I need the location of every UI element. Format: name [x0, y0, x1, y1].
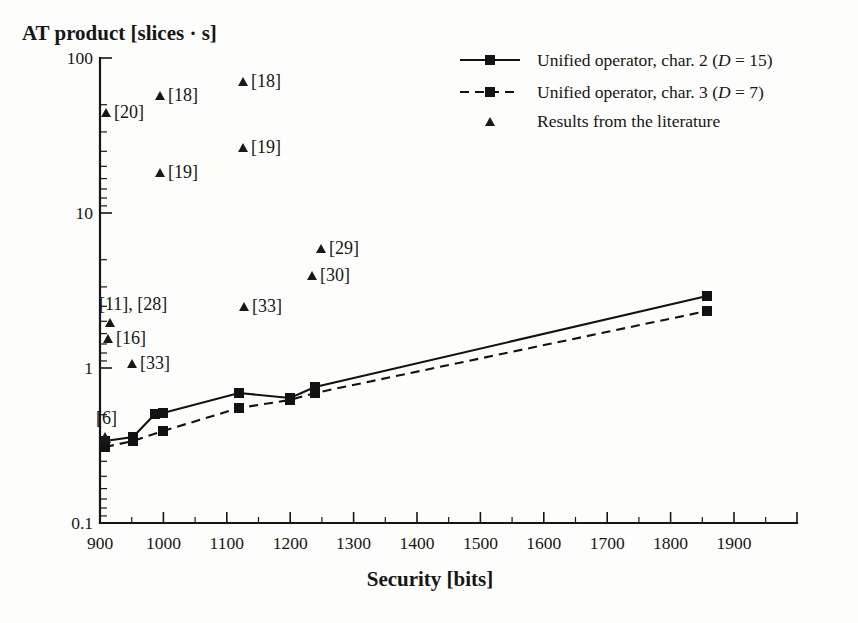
literature-point-29: [29] [316, 238, 359, 258]
literature-label-18-a: [18] [168, 85, 198, 105]
legend-item-literature[interactable]: Results from the literature [485, 111, 720, 131]
literature-point-19-a: [19] [238, 137, 281, 157]
literature-label-20: [20] [114, 102, 144, 122]
x-axis-title: Security [bits] [367, 567, 494, 591]
y-tick-label-0.1: 0.1 [71, 513, 93, 533]
literature-label-29: [29] [329, 238, 359, 258]
y-axis-major-ticks [100, 58, 112, 523]
literature-point-11-28: [11], [28] [99, 294, 167, 327]
legend-label-char2-suffix: = 15) [731, 50, 773, 70]
literature-label-33-a: [33] [140, 353, 170, 373]
x-tick-label-1900: 1900 [717, 533, 752, 553]
chart-figure: 100 10 1 0.1 900 1000 1100 1200 1300 140… [0, 0, 858, 623]
literature-label-30: [30] [320, 265, 350, 285]
x-tick-label-1800: 1800 [653, 533, 688, 553]
y-tick-label-10: 10 [76, 203, 94, 223]
y-tick-label-1: 1 [84, 358, 93, 378]
literature-label-6: [6] [96, 408, 117, 428]
legend-marker-square [486, 56, 495, 65]
x-tick-label-1500: 1500 [463, 533, 498, 553]
literature-point-16: [16] [103, 328, 146, 348]
series-char3-line [105, 311, 707, 447]
svg-text:Unified operator, char. 3 (D =: Unified operator, char. 3 (D = 7) [537, 82, 764, 102]
literature-label-11-28: [11], [28] [99, 294, 167, 314]
x-axis-tick-labels: 900 1000 1100 1200 1300 1400 1500 1600 1… [87, 533, 752, 553]
x-tick-label-900: 900 [87, 533, 114, 553]
x-tick-label-1700: 1700 [590, 533, 625, 553]
x-tick-label-1000: 1000 [146, 533, 181, 553]
legend-label-char3-symbol: D [717, 82, 731, 102]
series-char3-dashed [101, 307, 712, 452]
triangle-marker [103, 334, 113, 343]
triangle-marker [307, 271, 317, 280]
series-char2-line [105, 296, 707, 441]
x-axis-ticks [100, 512, 797, 523]
literature-point-20: [20] [101, 102, 144, 122]
legend-item-char3[interactable]: Unified operator, char. 3 (D = 7) [460, 82, 764, 102]
literature-point-18-b: [18] [238, 71, 281, 91]
literature-point-33-b: [33] [239, 296, 282, 316]
literature-label-19-b: [19] [168, 162, 198, 182]
x-tick-label-1600: 1600 [526, 533, 561, 553]
legend-marker-square [486, 88, 495, 97]
legend-label-char3-suffix: = 7) [731, 82, 764, 102]
x-tick-label-1300: 1300 [336, 533, 371, 553]
x-tick-label-1100: 1100 [210, 533, 245, 553]
literature-point-19-b: [19] [155, 162, 198, 182]
literature-label-16: [16] [116, 328, 146, 348]
literature-label-18-b: [18] [251, 71, 281, 91]
legend-label-char3-prefix: Unified operator, char. 3 ( [537, 82, 718, 102]
legend-label-char2-symbol: D [717, 50, 731, 70]
legend-label-char2-prefix: Unified operator, char. 2 ( [537, 50, 718, 70]
legend-marker-triangle [485, 117, 495, 126]
triangle-marker [238, 77, 248, 86]
triangle-marker [155, 168, 165, 177]
triangle-marker [316, 244, 326, 253]
triangle-marker [101, 108, 111, 117]
legend-item-char2[interactable]: Unified operator, char. 2 (D = 15) [460, 50, 773, 70]
y-axis-tick-labels: 100 10 1 0.1 [67, 48, 94, 533]
triangle-marker [238, 143, 248, 152]
triangle-marker [155, 91, 165, 100]
y-axis-title: AT product [slices · s] [22, 21, 217, 45]
y-tick-label-100: 100 [67, 48, 94, 68]
literature-label-33-b: [33] [252, 296, 282, 316]
chart-legend: Unified operator, char. 2 (D = 15) Unifi… [460, 50, 773, 131]
triangle-marker [239, 302, 249, 311]
literature-label-19-a: [19] [251, 137, 281, 157]
literature-point-33-a: [33] [127, 353, 170, 373]
triangle-marker [127, 359, 137, 368]
literature-point-18-a: [18] [155, 85, 198, 105]
x-tick-label-1200: 1200 [273, 533, 308, 553]
svg-text:Unified operator, char. 2 (D =: Unified operator, char. 2 (D = 15) [537, 50, 773, 70]
x-tick-label-1400: 1400 [400, 533, 435, 553]
legend-label-literature: Results from the literature [537, 111, 720, 131]
triangle-marker [105, 318, 115, 327]
literature-point-30: [30] [307, 265, 350, 285]
chart-canvas: 100 10 1 0.1 900 1000 1100 1200 1300 140… [0, 0, 858, 623]
